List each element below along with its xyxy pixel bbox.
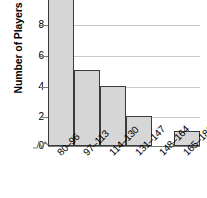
bar-80-96 (48, 0, 74, 146)
y-tick-mark-4 (40, 87, 48, 88)
y-tick-mark-6 (40, 56, 48, 57)
axis-break-icon (33, 139, 49, 149)
histogram-chart: Number of Players 8 6 4 2 0 80–96 97–113… (0, 0, 207, 198)
plot-area (48, 0, 200, 147)
y-tick-mark-8 (40, 25, 48, 26)
y-tick-mark-2 (40, 117, 48, 118)
